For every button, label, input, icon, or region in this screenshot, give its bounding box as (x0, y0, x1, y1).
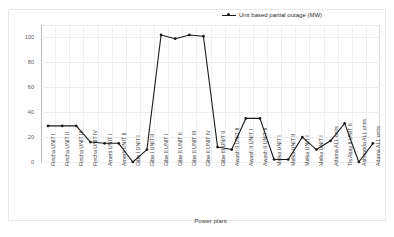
x-tick-label: Adama ALL units (333, 126, 339, 166)
x-tick-label: Melka UNIT II (290, 134, 296, 166)
x-tick-label: Gibe II UNIT IV (205, 130, 211, 166)
x-tick-label: Gibe I UNIT II (149, 134, 155, 166)
legend-label: Unit based partial outage (MW) (239, 12, 322, 18)
y-tick-40: 40 (0, 109, 34, 115)
x-tick-label: Gibe II UNIT I (163, 134, 169, 166)
x-tick-label: Gibe II UNIT II (177, 132, 183, 166)
x-tick-label: Adama ALL units (375, 126, 381, 166)
x-tick-label: Fincha UNIT III (78, 130, 84, 166)
x-tick-label: Gibe II UNIT III (191, 131, 197, 166)
legend-marker-icon (222, 13, 236, 18)
x-tick-label: Gibe I UNIT I (135, 135, 141, 166)
gridline-x-20 (324, 25, 325, 163)
x-axis-label: Power plant (41, 217, 380, 224)
x-tick-label: Fincha UNIT II (64, 132, 70, 166)
y-tick-100: 100 (0, 34, 34, 40)
x-tick-label: Awash II UNIT II (262, 128, 268, 166)
x-tick-label: Melka UNIT I (304, 135, 310, 166)
y-tick-80: 80 (0, 59, 34, 65)
x-tick-label: Amerti UNIT II (121, 133, 127, 166)
figure-border (8, 9, 386, 221)
x-tick-label: Melka UNIT I (318, 135, 324, 166)
chart-legend: Unit based partial outage (MW) (222, 12, 322, 18)
x-tick-label: Melka UNIT I (276, 135, 282, 166)
x-tick-label: Gibe III UNIT II (220, 131, 226, 166)
gridline-x-12 (211, 25, 212, 163)
x-tick-label: Awash II UNIT II (234, 128, 240, 166)
x-tick-label: Fincha UNIT IV (92, 130, 98, 166)
chart-figure: 020406080100 Power (MW) Power plant Finc… (0, 0, 394, 237)
gridline-x-4 (98, 25, 99, 163)
x-tick-label: Tis Abay II UNIT II (347, 123, 353, 166)
y-tick-0: 0 (0, 159, 34, 165)
plot-left-axis (41, 25, 42, 163)
x-tick-label: Fincha UNIT I (50, 133, 56, 166)
y-tick-60: 60 (0, 84, 34, 90)
x-tick-label: Amerti UNIT I (107, 134, 113, 166)
x-tick-label: Ashegoda ALL units (361, 119, 367, 166)
x-tick-label: Awash II UNIT I (248, 129, 254, 166)
y-tick-20: 20 (0, 134, 34, 140)
